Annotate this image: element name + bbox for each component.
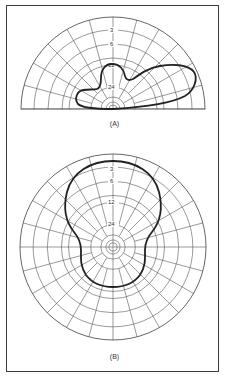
svg-text:24: 24 — [108, 221, 115, 227]
panel-b-caption: (B) — [0, 353, 229, 360]
panel-a-caption: (A) — [0, 120, 229, 127]
svg-text:24: 24 — [108, 84, 115, 90]
svg-text:12: 12 — [108, 199, 115, 205]
polar-plots: 3 6 12 24 3 6 12 24 — [0, 0, 229, 381]
